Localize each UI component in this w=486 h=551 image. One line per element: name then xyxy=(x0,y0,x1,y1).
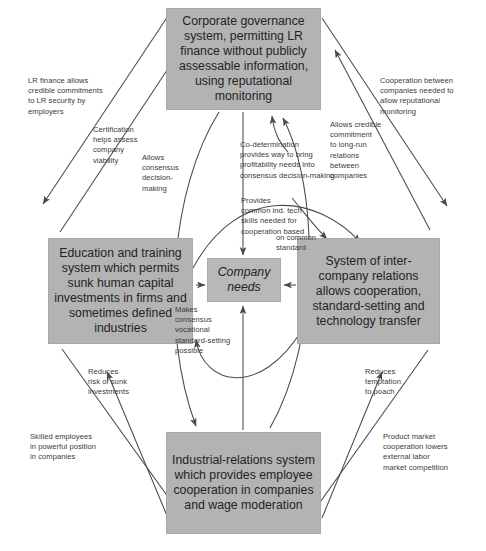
edge-label-provides-common: Provides common ind. tech skills needed … xyxy=(241,196,315,237)
edge-label-makes-consensus: Makes consensus vocational standard-sett… xyxy=(175,305,239,356)
node-education-training-label: Education and training system which perm… xyxy=(49,246,192,336)
node-company-needs-label: Company needs xyxy=(208,265,280,295)
node-company-needs: Company needs xyxy=(207,258,281,302)
node-inter-company-relations-label: System of inter-company relations allows… xyxy=(298,254,439,329)
edge-label-reduces-temptation: Reduces temptation to poach xyxy=(365,367,415,398)
node-corporate-governance-label: Corporate governance system, permitting … xyxy=(167,14,320,104)
node-education-training: Education and training system which perm… xyxy=(48,238,193,344)
edge-label-product-market: Product market cooperation lowers extern… xyxy=(383,432,471,473)
edge-label-cooperation-between: Cooperation between companies needed to … xyxy=(380,76,472,117)
node-industrial-relations-label: Industrial-relations system which provid… xyxy=(167,453,320,513)
edge-label-reduces-risk: Reduces risk of sunk investments xyxy=(88,367,138,398)
diagram-canvas: Corporate governance system, permitting … xyxy=(0,0,486,551)
node-inter-company-relations: System of inter-company relations allows… xyxy=(297,238,440,344)
edge-label-skilled-employees: Skilled employees in powerful position i… xyxy=(30,432,110,463)
edge-label-allows-consensus: Allows consensus decision- making xyxy=(142,153,186,194)
node-industrial-relations: Industrial-relations system which provid… xyxy=(166,432,321,534)
edge-label-on-common-standard: on common standard xyxy=(276,233,332,253)
edge-label-lr-finance: LR finance allows credible commitments t… xyxy=(28,76,123,117)
node-corporate-governance: Corporate governance system, permitting … xyxy=(166,8,321,110)
edge-label-allows-credible: Allows credible commitment to long-run r… xyxy=(330,120,392,181)
